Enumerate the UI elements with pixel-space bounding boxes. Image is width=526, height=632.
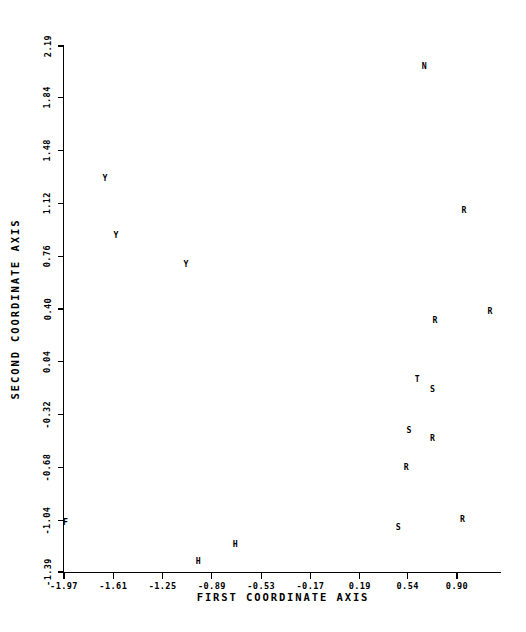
y-axis-tick-label: -0.32 — [43, 401, 53, 429]
x-axis-tick-label: 0.90 — [446, 581, 468, 591]
y-axis-tick-label: 0.04 — [43, 351, 53, 373]
data-point-r: R — [430, 433, 435, 443]
x-axis-tick-label: -0.17 — [297, 581, 325, 591]
y-axis-tick-label: -1.04 — [43, 507, 53, 535]
x-axis-tick-label: -0.53 — [247, 581, 275, 591]
scatter-plot-figure: 2.191.841.481.120.760.400.04-0.32-0.68-1… — [0, 0, 526, 632]
x-axis-tick-label: -1.25 — [149, 581, 177, 591]
y-axis-tick-label: 2.19 — [43, 35, 53, 57]
x-axis-tick-label: -0.89 — [198, 581, 226, 591]
x-axis-tick-label: -1.97 — [50, 581, 78, 591]
data-point-n: N — [422, 61, 427, 71]
y-axis-tick-label: 1.12 — [43, 192, 53, 214]
data-point-h: H — [196, 556, 201, 566]
x-axis-tick-label: 0.19 — [349, 581, 371, 591]
y-axis-tick-label: 1.48 — [43, 139, 53, 161]
data-point-group: NYRYYRRTSSRRFRSHH — [63, 61, 492, 566]
data-point-r: R — [404, 462, 409, 472]
y-axis-tick-label: 0.40 — [43, 298, 53, 320]
plot-canvas: 2.191.841.481.120.760.400.04-0.32-0.68-1… — [0, 0, 526, 632]
x-axis-tick-label: -1.61 — [99, 581, 127, 591]
y-axis-title: SECOND COORDINATE AXIS — [9, 219, 21, 400]
data-point-h: H — [233, 539, 238, 549]
y-axis-tick-group: 2.191.841.481.120.760.400.04-0.32-0.68-1… — [43, 35, 65, 586]
data-point-r: R — [487, 306, 492, 316]
data-point-r: R — [461, 205, 466, 215]
data-point-s: S — [430, 384, 435, 394]
data-point-s: S — [407, 425, 412, 435]
data-point-y: Y — [103, 173, 108, 183]
data-point-y: Y — [183, 259, 188, 269]
y-axis-tick-label: 0.76 — [43, 245, 53, 267]
x-axis-tick-label: 0.54 — [397, 581, 419, 591]
data-point-f: F — [63, 517, 68, 527]
x-axis-tick-group: -1.97-1.61-1.25-0.89-0.53-0.170.190.540.… — [50, 572, 468, 591]
y-axis-tick-label: 1.84 — [43, 86, 53, 108]
x-axis-title: FIRST COORDINATE AXIS — [197, 591, 370, 603]
data-point-s: S — [396, 522, 401, 532]
data-point-y: Y — [114, 230, 119, 240]
data-point-r: R — [460, 514, 465, 524]
y-axis-tick-label: -0.68 — [43, 454, 53, 482]
data-point-r: R — [433, 315, 438, 325]
data-point-t: T — [415, 374, 420, 384]
